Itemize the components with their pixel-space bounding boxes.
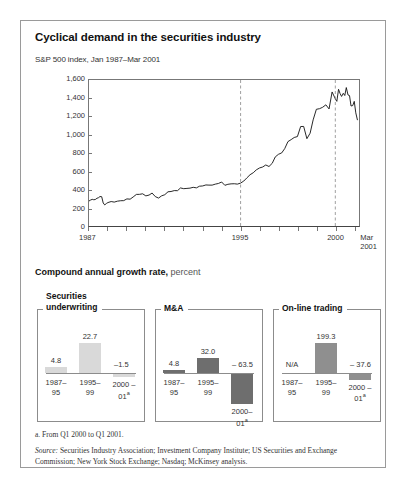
y-axis-tick-mark (88, 116, 92, 117)
bar (45, 367, 67, 373)
x-axis-tick-mark (126, 227, 127, 231)
sp500-line-chart: 1,6001,4001,2001,0008006004002000 198719… (35, 71, 373, 261)
bar-chart-mergers-acquisitions: 4.81987–9532.01995–99– 63.52000–01a (156, 310, 262, 421)
x-axis-tick-mark (145, 227, 146, 231)
y-axis-tick-label: 1,000 (35, 131, 85, 139)
bar-value-label: – 63.5 (232, 361, 266, 369)
y-axis-tick-mark (88, 209, 92, 210)
bar (163, 370, 185, 373)
bar-value-label: N/A (275, 361, 309, 369)
bar-category-label: 1995–99 (188, 378, 228, 398)
y-axis-tick-mark (88, 153, 92, 154)
y-axis-tick-mark (88, 135, 92, 136)
y-axis-tick-label: 1,400 (35, 94, 85, 102)
y-axis-tick-label: 400 (35, 186, 85, 194)
bar-value-label: 4.8 (157, 360, 191, 368)
sp500-line-path (89, 80, 359, 226)
page-title: Cyclical demand in the securities indust… (35, 31, 261, 43)
bar-category-label: 2000 –01a (340, 383, 380, 404)
x-axis-tick-mark (107, 227, 108, 231)
cagr-heading: Compound annual growth rate, percent (35, 267, 201, 277)
bar (197, 358, 219, 373)
y-axis-tick-label: 1,200 (35, 112, 85, 120)
y-axis-tick-mark (88, 190, 92, 191)
source-label: Source: (35, 446, 58, 455)
x-axis-tick-mark (279, 227, 280, 231)
footnote-a: a. From Q1 2000 to Q1 2001. (35, 430, 375, 439)
panel-title-online-trading: On-line trading (279, 303, 345, 314)
bar-value-label: –1.5 (114, 361, 148, 369)
y-axis-tick-label: 1,600 (35, 75, 85, 83)
x-axis-tick-label: 1995 (232, 233, 249, 242)
x-axis-tick-mark (336, 227, 337, 231)
panel-securities-underwriting: 4.81987–9522.71995–99–1.52000 –01a (37, 309, 145, 422)
line-chart-plot-area (88, 79, 360, 227)
y-axis-tick-label: 0 (35, 223, 85, 231)
x-axis-tick-mark (222, 227, 223, 231)
bar (349, 374, 371, 380)
y-axis-tick-label: 600 (35, 168, 85, 176)
x-axis-tick-label: 1987 (79, 233, 96, 242)
cagr-heading-text: Compound annual growth rate, (35, 267, 168, 277)
source-note: Source: Securities Industry Association;… (35, 446, 375, 468)
bar-value-label: – 37.6 (350, 361, 384, 369)
bar-chart-securities-underwriting: 4.81987–9522.71995–99–1.52000 –01a (38, 310, 144, 421)
x-axis-tick-mark (88, 227, 89, 231)
y-axis-tick-mark (88, 98, 92, 99)
bar-value-label: 199.3 (309, 333, 343, 341)
x-axis-tick-mark (260, 227, 261, 231)
panel-mergers-acquisitions: 4.81987–9532.01995–99– 63.52000–01a (155, 309, 263, 422)
panel-title-mergers-acquisitions: M&A (161, 303, 186, 314)
x-axis-tick-mark (183, 227, 184, 231)
x-axis-tick-mark (203, 227, 204, 231)
x-axis-tick-mark (164, 227, 165, 231)
bar-value-label: 22.7 (73, 333, 107, 341)
y-axis-tick-label: 800 (35, 149, 85, 157)
source-text: Securities Industry Association; Investm… (35, 446, 337, 466)
x-axis-tick-mark (317, 227, 318, 231)
y-axis-tick-mark (88, 172, 92, 173)
bar-chart-online-trading: N/A1987–95199.31995–99– 37.62000 –01a (274, 310, 380, 421)
x-axis-tick-label: 2000 (327, 233, 344, 242)
bar-value-label: 4.8 (39, 357, 73, 365)
x-axis-tick-mark (298, 227, 299, 231)
x-axis-tick-label: Mar2001 (360, 233, 377, 252)
bar-value-label: 32.0 (191, 348, 225, 356)
bar (231, 374, 253, 404)
bar (79, 343, 101, 373)
bar (113, 374, 135, 377)
bar (315, 343, 337, 373)
panel-online-trading: N/A1987–95199.31995–99– 37.62000 –01a (273, 309, 381, 422)
exhibit-card: Cyclical demand in the securities indust… (20, 20, 386, 468)
x-axis-tick-mark (241, 227, 242, 231)
chart-subtitle: S&P 500 index, Jan 1987–Mar 2001 (35, 55, 160, 64)
bar-category-label: 2000 –01a (104, 380, 144, 401)
y-axis-tick-label: 200 (35, 205, 85, 213)
x-axis-tick-mark (355, 227, 356, 231)
bar-category-label: 2000–01a (222, 407, 262, 428)
panel-title-securities-underwriting: Securitiesunderwriting (43, 291, 100, 312)
cagr-heading-unit: percent (171, 267, 201, 277)
